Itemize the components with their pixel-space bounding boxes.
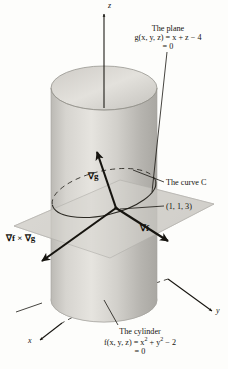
axis-x-label-text: x <box>28 336 32 345</box>
plane-annotation-equals-zero: = 0 <box>108 42 228 51</box>
cylinder-annotation-title: The cylinder <box>64 327 216 336</box>
axis-y <box>168 279 212 311</box>
plane-annotation: The plane g(x, y, z) = x + z − 4 = 0 <box>108 24 228 52</box>
axis-x <box>40 323 62 340</box>
axis-y-label: y <box>216 307 220 316</box>
axis-z-label-text: z <box>108 1 111 10</box>
axis-x-label: x <box>28 337 32 346</box>
grad-f-label: ∇f <box>140 223 149 233</box>
plane-annotation-equation: g(x, y, z) = x + z − 4 <box>108 33 228 42</box>
cylinder-annotation: The cylinder f(x, y, z) = x2 + y2 − 2 = … <box>64 327 216 356</box>
cross-product-label-text: ∇f × ∇g <box>6 233 35 243</box>
cylinder-eq-mid: + y <box>147 338 160 347</box>
axis-z-label: z <box>108 2 111 11</box>
point-label: (1, 1, 3) <box>166 202 192 211</box>
plane-surface-front <box>14 180 214 258</box>
point-label-text: (1, 1, 3) <box>166 202 192 211</box>
cylinder-eq-prefix: f(x, y, z) = x <box>104 338 144 347</box>
grad-g-label: ∇g <box>88 171 99 181</box>
plane-annotation-title: The plane <box>108 24 228 33</box>
cylinder-annotation-equation: f(x, y, z) = x2 + y2 − 2 <box>64 336 216 347</box>
axis-y-label-text: y <box>216 306 220 315</box>
curve-c-label: The curve C <box>166 178 206 187</box>
grad-g-label-text: ∇g <box>88 171 99 181</box>
cylinder-annotation-equals-zero: = 0 <box>64 347 216 356</box>
point-marker <box>114 206 117 209</box>
grad-f-label-text: ∇f <box>140 223 149 233</box>
cross-product-label: ∇f × ∇g <box>6 233 35 243</box>
curve-c-label-text: The curve C <box>166 178 206 187</box>
cylinder-eq-suffix: − 2 <box>163 338 176 347</box>
